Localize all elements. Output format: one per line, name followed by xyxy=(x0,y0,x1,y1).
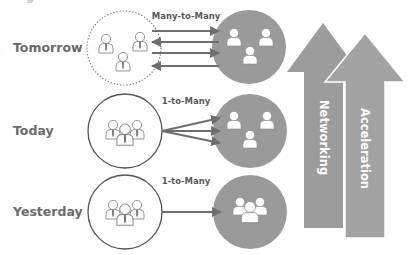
row-label-tomorrow: Tomorrow xyxy=(13,41,83,55)
networking-label: Networking xyxy=(317,100,330,175)
diagram-canvas: g Tomorrow Today Yesterday Many-to-Many … xyxy=(0,0,414,255)
link-label-one-to-many-today: 1-to-Many xyxy=(162,96,211,106)
many-to-many-arrows xyxy=(152,31,219,66)
cropped-text-fragment: g xyxy=(26,0,34,5)
tomorrow-source-circle xyxy=(87,11,161,85)
row-label-today: Today xyxy=(13,124,54,138)
yesterday-target-circle xyxy=(213,175,287,249)
tomorrow-target-circle xyxy=(212,10,286,84)
acceleration-label: Acceleration xyxy=(358,108,371,189)
today-source-circle xyxy=(88,94,162,168)
row-label-yesterday: Yesterday xyxy=(13,205,83,219)
yesterday-source-circle xyxy=(88,175,162,249)
today-target-circle xyxy=(213,94,287,168)
link-label-many-to-many: Many-to-Many xyxy=(152,11,221,21)
one-to-many-fan-arrows xyxy=(162,118,220,143)
link-label-one-to-many-yesterday: 1-to-Many xyxy=(162,176,211,186)
